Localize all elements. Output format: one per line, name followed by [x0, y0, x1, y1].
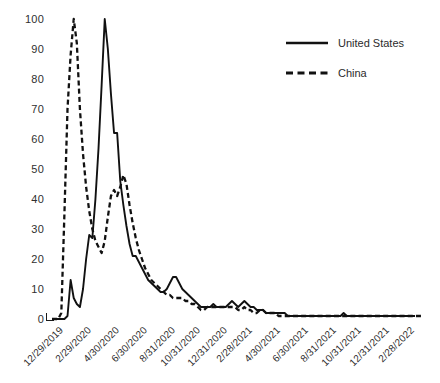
solid-line-icon: [286, 37, 328, 49]
legend-label: China: [338, 67, 367, 79]
legend-item-united-states[interactable]: United States: [286, 32, 436, 54]
y-tick-label: 80: [31, 74, 44, 85]
legend-item-china[interactable]: China: [286, 62, 436, 84]
y-tick-label: 70: [31, 104, 44, 115]
y-tick-label: 20: [31, 254, 44, 265]
chart-legend: United StatesChina: [286, 32, 436, 92]
y-tick-label: 100: [25, 14, 44, 25]
line-chart: 0102030405060708090100 12/29/20192/29/20…: [0, 0, 440, 383]
dashed-line-icon: [286, 67, 328, 79]
y-tick-label: 10: [31, 284, 44, 295]
y-tick-label: 60: [31, 134, 44, 145]
legend-label: United States: [338, 37, 404, 49]
y-tick-label: 90: [31, 44, 44, 55]
x-axis: 12/29/20192/29/20204/30/20206/30/20208/3…: [0, 319, 440, 383]
y-tick-label: 40: [31, 194, 44, 205]
y-tick-label: 50: [31, 164, 44, 175]
y-tick-label: 30: [31, 224, 44, 235]
